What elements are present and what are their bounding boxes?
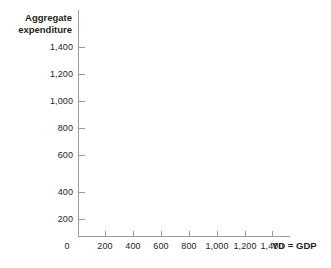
y-axis-title: Aggregate expenditure [0,12,72,35]
y-axis-title-line-2: expenditure [0,24,72,36]
y-axis-title-line-1: Aggregate [0,12,72,24]
y-tick-1000 [79,101,85,102]
y-tick-1200 [79,74,85,75]
origin-label: 0 [62,241,72,251]
x-tick-400 [133,231,134,237]
x-axis-title: YD = GDP [272,240,317,251]
y-tick-label-1400: 1,400 [50,42,73,52]
y-tick-label-1200: 1,200 [50,69,73,79]
y-tick-1400 [79,47,85,48]
aggregate-expenditure-chart: Aggregate expenditure 1,400 1,200 1,000 … [0,0,331,268]
x-tick-1200 [245,231,246,237]
y-tick-200 [79,219,85,220]
x-axis-line [78,236,290,237]
x-tick-label-800: 800 [181,241,196,251]
x-tick-label-1200: 1,200 [233,241,256,251]
y-tick-600 [79,155,85,156]
x-tick-label-200: 200 [97,241,112,251]
x-tick-800 [189,231,190,237]
x-tick-label-1000: 1,000 [205,241,228,251]
x-tick-label-400: 400 [125,241,140,251]
y-tick-label-400: 400 [58,187,73,197]
x-tick-1400 [272,231,273,237]
y-tick-400 [79,192,85,193]
y-tick-800 [79,128,85,129]
y-tick-label-200: 200 [58,214,73,224]
y-tick-label-600: 600 [58,150,73,160]
y-tick-label-800: 800 [58,123,73,133]
plot-area [79,10,290,236]
x-tick-600 [161,231,162,237]
x-tick-200 [105,231,106,237]
x-tick-1000 [217,231,218,237]
y-tick-label-1000: 1,000 [50,96,73,106]
x-tick-label-600: 600 [153,241,168,251]
